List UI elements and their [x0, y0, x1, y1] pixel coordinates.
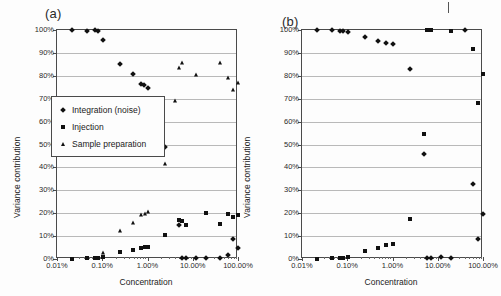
- data-point-diamond: [315, 27, 321, 33]
- x-minor-tick: [137, 257, 138, 259]
- data-point-diamond: [96, 28, 102, 34]
- data-point-diamond: [100, 37, 106, 43]
- data-point-diamond: [176, 222, 182, 228]
- data-point-square: [429, 28, 433, 32]
- x-axis-tick-label: 100.00%: [468, 262, 498, 270]
- data-point-square: [85, 256, 89, 260]
- data-point-square: [139, 246, 143, 250]
- y-axis-tick-label: 30%: [39, 187, 54, 195]
- legend-label: Integration (noise): [72, 105, 141, 115]
- data-point-triangle: [177, 66, 181, 70]
- data-point-square: [163, 233, 167, 237]
- x-minor-tick: [231, 257, 232, 259]
- data-point-square: [408, 217, 412, 221]
- data-point-triangle: [180, 61, 184, 65]
- figure-root: (a) Variance contribution 0%10%20%30%40%…: [0, 0, 501, 296]
- diamond-marker-icon: [58, 108, 68, 112]
- y-axis-tick-label: 10%: [284, 232, 299, 240]
- y-axis-tick-label: 10%: [39, 232, 54, 240]
- data-point-triangle: [236, 81, 240, 85]
- data-point-diamond: [235, 245, 241, 251]
- y-axis-tick-label: 60%: [284, 118, 299, 126]
- chart-panel-b: (b) Variance contribution 0%10%20%30%40%…: [250, 0, 501, 296]
- data-point-triangle: [146, 210, 150, 214]
- data-point-square: [226, 212, 230, 216]
- data-point-triangle: [231, 88, 235, 92]
- gridline: [302, 190, 481, 191]
- x-minor-tick: [236, 257, 237, 259]
- data-point-diamond: [225, 252, 231, 258]
- panel-b-plot-area: 0%10%20%30%40%50%60%70%80%90%100%0.01%0.…: [301, 29, 482, 258]
- legend-item-sample-preparation: Sample preparation: [58, 135, 159, 152]
- data-point-triangle: [131, 220, 135, 224]
- data-point-triangle: [226, 75, 230, 79]
- data-point-square: [236, 213, 240, 217]
- data-point-diamond: [438, 254, 444, 260]
- x-minor-tick: [134, 257, 135, 259]
- gridline: [57, 53, 236, 54]
- x-axis-tick-label: 10.00%: [425, 262, 450, 270]
- legend-label: Sample preparation: [72, 139, 146, 149]
- x-minor-tick: [385, 257, 386, 259]
- y-axis-tick-label: 100%: [280, 26, 299, 34]
- x-minor-tick: [473, 257, 474, 259]
- data-point-diamond: [407, 66, 413, 72]
- data-point-square: [346, 255, 350, 259]
- data-point-triangle: [194, 72, 198, 76]
- data-point-diamond: [145, 85, 151, 91]
- data-point-triangle: [118, 229, 122, 233]
- y-axis-tick-label: 20%: [284, 209, 299, 217]
- data-point-diamond: [383, 40, 389, 46]
- x-minor-tick: [382, 257, 383, 259]
- data-point-square: [231, 215, 235, 219]
- x-minor-tick: [388, 257, 389, 259]
- data-point-diamond: [421, 151, 427, 157]
- x-minor-tick: [191, 257, 192, 259]
- y-axis-tick-label: 80%: [284, 72, 299, 80]
- y-axis-tick-label: 20%: [39, 209, 54, 217]
- legend-label: Injection: [72, 122, 104, 132]
- x-axis-tick-label: 0.01%: [291, 262, 312, 270]
- gridline: [57, 190, 236, 191]
- x-minor-tick: [129, 257, 130, 259]
- x-minor-tick: [140, 257, 141, 259]
- x-minor-tick: [436, 257, 437, 259]
- data-point-diamond: [480, 211, 486, 217]
- data-point-square: [218, 222, 222, 226]
- data-point-square: [180, 219, 184, 223]
- data-point-diamond: [345, 29, 351, 35]
- gridline: [302, 122, 481, 123]
- chart-legend: Integration (noise) Injection Sample pre…: [51, 96, 165, 157]
- y-axis-tick-label: 70%: [284, 95, 299, 103]
- data-point-square: [118, 250, 122, 254]
- panel-a-label: (a): [45, 6, 62, 21]
- panel-b-y-axis-title: Variance contribution: [242, 137, 252, 218]
- data-point-square: [476, 101, 480, 105]
- y-axis-tick-label: 100%: [35, 26, 54, 34]
- x-minor-tick: [214, 257, 215, 259]
- data-point-diamond: [462, 27, 468, 33]
- data-point-triangle: [139, 213, 143, 217]
- gridline: [302, 167, 481, 168]
- data-point-diamond: [217, 255, 223, 261]
- x-minor-tick: [361, 257, 362, 259]
- panel-b-x-axis-title: Concentration: [365, 277, 418, 287]
- x-minor-tick: [369, 257, 370, 259]
- x-axis-tick-label: 1.00%: [382, 262, 403, 270]
- x-minor-tick: [124, 257, 125, 259]
- gridline: [57, 167, 236, 168]
- legend-item-injection: Injection: [58, 118, 159, 135]
- y-axis-tick-label: 80%: [39, 72, 54, 80]
- data-point-diamond: [375, 38, 381, 44]
- data-point-square: [481, 72, 485, 76]
- gridline: [57, 76, 236, 77]
- data-point-square: [131, 248, 135, 252]
- x-minor-tick: [143, 257, 144, 259]
- data-point-triangle: [173, 98, 177, 102]
- data-point-diamond: [330, 28, 336, 34]
- x-minor-tick: [406, 257, 407, 259]
- data-point-square: [376, 246, 380, 250]
- y-axis-tick-label: 30%: [284, 187, 299, 195]
- data-point-square: [184, 223, 188, 227]
- data-point-square: [146, 245, 150, 249]
